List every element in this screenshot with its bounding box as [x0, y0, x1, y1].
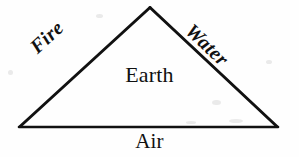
label-earth: Earth	[0, 64, 299, 86]
elements-triangle-diagram: Fire Water Earth Air	[0, 0, 299, 157]
label-air: Air	[0, 131, 299, 152]
